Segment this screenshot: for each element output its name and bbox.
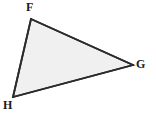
triangle-diagram-svg — [0, 0, 156, 114]
vertex-label-h: H — [3, 99, 12, 111]
vertex-label-g: G — [136, 58, 145, 70]
vertex-label-f: F — [26, 1, 33, 13]
geometry-figure: F G H — [0, 0, 156, 114]
